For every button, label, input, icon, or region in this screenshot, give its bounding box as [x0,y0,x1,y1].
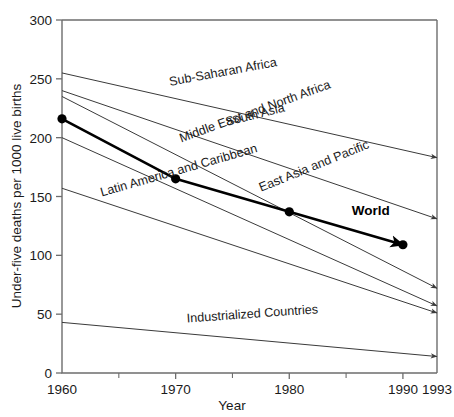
x-axis-ticks: 19601970198019901993 [47,373,452,397]
x-tick-label: 1960 [47,382,77,397]
series-label: Middle East and North Africa [178,77,333,145]
y-tick-label: 0 [44,366,52,381]
y-tick-label: 150 [29,190,52,205]
y-axis-title: Under-five deaths per 1000 live births [9,84,24,309]
under-five-mortality-line-chart: 050100150200250300 19601970198019901993 … [0,0,454,417]
y-tick-label: 50 [37,307,52,322]
x-tick-label: 1970 [161,382,191,397]
x-axis-title: Year [218,398,246,413]
data-point-marker [285,207,294,216]
y-tick-label: 100 [29,248,52,263]
series-line [62,138,437,306]
x-tick-label: 1980 [274,382,304,397]
x-tick-label: 1993 [422,382,452,397]
chart-container: 050100150200250300 19601970198019901993 … [0,0,454,417]
data-point-marker [398,240,407,249]
series-label: Industrialized Countries [186,302,318,325]
series-line [62,322,437,356]
series-label: World [352,203,390,218]
y-tick-label: 300 [29,13,52,28]
y-axis-ticks: 050100150200250300 [29,13,62,381]
y-tick-label: 250 [29,72,52,87]
series-label: East Asia and Pacific [257,138,371,195]
series-label: Sub-Saharan Africa [168,55,278,89]
series-annotations: Sub-Saharan AfricaSouth AsiaMiddle East … [99,55,390,325]
x-tick-label: 1990 [388,382,418,397]
y-tick-label: 200 [29,131,52,146]
data-point-marker [57,114,66,123]
